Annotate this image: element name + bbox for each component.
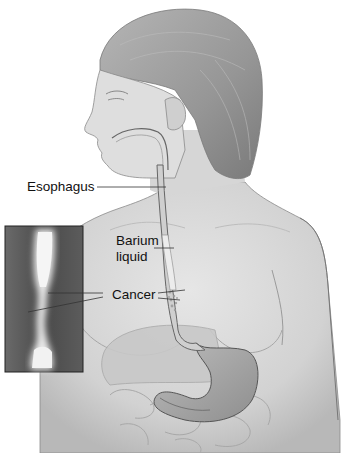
- ear: [165, 98, 186, 130]
- cancer-label: Cancer: [112, 287, 156, 302]
- xray-inset: [5, 226, 83, 372]
- illustration-canvas: [0, 0, 350, 453]
- barium-liquid-label-line1: Barium: [116, 233, 159, 248]
- barium-liquid-label-line2: liquid: [116, 249, 148, 264]
- esophagus-label: Esophagus: [27, 179, 95, 194]
